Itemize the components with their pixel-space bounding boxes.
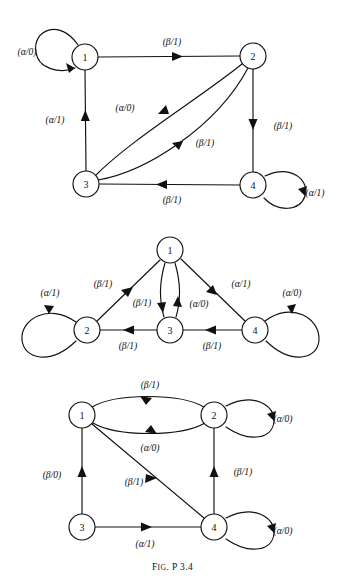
edge-label-3-1: (α/1) [46, 114, 65, 126]
edge-2-2-self-loop-3 [226, 400, 274, 437]
arrowhead-2-1-curve [140, 396, 152, 405]
edge-label-4-3: (β/1) [203, 340, 222, 352]
arrowhead-3-2b [123, 326, 134, 335]
node-2[interactable]: 2 [74, 317, 100, 343]
edge-label-2-4: (β/1) [274, 120, 293, 132]
edge-3-2-curve [98, 68, 248, 180]
figure-caption-rest: . P 3.4 [166, 562, 193, 572]
edge-label-1-2-curve: (α/0) [141, 442, 160, 454]
node-2-label: 2 [251, 51, 256, 62]
edge-label-3-4-3: (α/1) [136, 538, 155, 550]
edge-label-4-4: (α/1) [306, 187, 325, 199]
node-2[interactable]: 2 [201, 402, 227, 428]
node-4[interactable]: 4 [242, 317, 268, 343]
node-1-label: 1 [168, 245, 173, 256]
node-1-label: 1 [83, 52, 88, 63]
arrowhead-3-1-3 [78, 466, 87, 477]
arrowhead-2-4 [249, 119, 258, 130]
edge-1-1-self-loop [36, 29, 78, 70]
arrowhead-1-1 [66, 63, 75, 73]
edge-4-3 [99, 184, 240, 185]
node-3-label: 3 [80, 522, 85, 533]
edge-label-1-3: (β/1) [133, 297, 152, 309]
edge-label-2-1-curve: (β/1) [141, 379, 160, 391]
node-1-label: 1 [80, 410, 85, 421]
edge-label-4-4-2: (α/0) [283, 287, 302, 299]
edge-label-4-4-3: (α/0) [274, 525, 293, 537]
node-1[interactable]: 1 [72, 44, 98, 70]
edge-label-3-2: (β/1) [119, 340, 138, 352]
edge-3-1-curve [175, 263, 180, 317]
node-2-label: 2 [85, 325, 90, 336]
edge-1-2 [98, 56, 240, 57]
arrowhead-3-4-3 [141, 523, 152, 532]
edge-1-4-3 [92, 424, 204, 518]
node-1[interactable]: 1 [69, 402, 95, 428]
arrowhead-4-3b [205, 326, 216, 335]
arrowhead-3-2 [172, 141, 183, 150]
state-diagram-3: (β/1) (α/0) (α/0) (β/0) (β/1) (α/1) (β/1… [0, 370, 345, 555]
edge-label-4-2-3: (β/1) [234, 466, 253, 478]
node-3-label: 3 [168, 325, 173, 336]
figure-container: (α/0) (β/1) (β/1) (α/1) (β/1) (α/1) (α/0… [0, 0, 345, 582]
arrowhead-3-1 [81, 110, 90, 121]
node-2-label: 2 [212, 410, 217, 421]
state-diagram-2: (β/1) (α/1) (β/1) (α/0) (β/1) (β/1) (α/1… [0, 225, 345, 365]
arrowhead-4-3 [156, 180, 167, 189]
edge-label-1-1: (α/0) [18, 46, 37, 58]
arrowhead-1-3 [157, 302, 166, 313]
edge-label-1-4: (α/1) [232, 278, 251, 290]
arrowhead-2-2 [44, 305, 54, 314]
arrowhead-1-2-curve [145, 425, 157, 434]
edge-label-2-1: (β/1) [94, 278, 113, 290]
edge-label-1-4-3: (β/1) [125, 476, 144, 488]
edge-2-2-self-loop [22, 313, 76, 357]
figure-caption: FIG. P 3.4 [0, 562, 345, 572]
edge-label-2-2-3: (α/0) [274, 413, 293, 425]
node-4-label: 4 [212, 522, 217, 533]
node-4-label: 4 [251, 180, 256, 191]
edge-label-4-3: (β/1) [163, 194, 182, 206]
state-diagram-1: (α/0) (β/1) (β/1) (α/1) (β/1) (α/1) (α/0… [0, 0, 345, 215]
arrowhead-1-4 [206, 285, 217, 295]
node-4[interactable]: 4 [240, 172, 266, 198]
arrowhead-1-4-3 [145, 474, 157, 483]
edge-label-2-2: (α/1) [41, 287, 60, 299]
node-3[interactable]: 3 [69, 514, 95, 540]
node-4[interactable]: 4 [201, 514, 227, 540]
edge-label-3-1: (α/0) [190, 298, 209, 310]
arrowhead-1-2 [172, 52, 183, 61]
arrowhead-2-3 [158, 105, 169, 114]
node-3[interactable]: 3 [157, 317, 183, 343]
node-3-label: 3 [84, 179, 89, 190]
edge-4-4-self-loop-3 [226, 512, 274, 549]
edge-label-3-2: (β/1) [196, 137, 215, 149]
edge-2-3-curve [94, 64, 242, 177]
node-2[interactable]: 2 [240, 43, 266, 69]
arrowhead-4-2-3 [210, 466, 219, 477]
edge-label-2-3: (α/0) [116, 102, 135, 114]
node-1[interactable]: 1 [157, 237, 183, 263]
edge-4-4-self-loop-2 [265, 312, 319, 357]
arrowhead-3-1b [173, 296, 182, 307]
edge-label-1-2: (β/1) [163, 36, 182, 48]
edge-label-3-1-3: (β/0) [43, 469, 62, 481]
node-4-label: 4 [253, 325, 258, 336]
node-3[interactable]: 3 [73, 171, 99, 197]
